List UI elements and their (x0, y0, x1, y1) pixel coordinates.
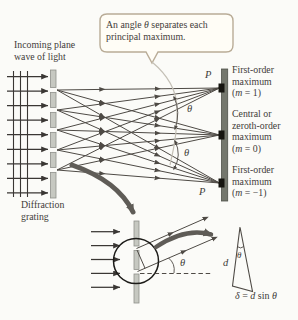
diffracted-ray (57, 88, 220, 90)
m-1-order: (m = −1) (232, 187, 274, 199)
callout-line1-post: separates each (149, 19, 208, 30)
point-p-bottom-label: P (199, 186, 205, 198)
grating-segment (51, 153, 57, 168)
diffracted-ray (57, 88, 220, 110)
diffracted-ray (57, 88, 220, 170)
grating-label-line1: Diffraction (21, 199, 64, 211)
callout-text: An angle θ separates each principal maxi… (106, 19, 208, 43)
m0-order-post: = 0) (242, 143, 261, 154)
d-label: d (223, 257, 228, 269)
diffracted-ray (57, 88, 220, 130)
diffraction-grating-figure: Incoming plane wave of light An angle θ … (0, 0, 298, 320)
theta-inset-label: θ (180, 257, 185, 269)
theta-arc-inset (169, 258, 175, 273)
path-difference-formula: δ = d sin θ (235, 290, 277, 302)
label-first-order-max-m-1: First-order maximum (m = −1) (232, 164, 274, 199)
diffracted-ray (57, 135, 220, 150)
path-difference-triangle (233, 227, 253, 292)
m0-line1: Central or (232, 108, 280, 120)
formula-theta: θ (272, 290, 277, 301)
formula-sin: sin (255, 290, 272, 301)
callout-line1-pre: An angle (106, 19, 144, 30)
grating-label-line2: grating (21, 211, 64, 223)
theta-lower-label: θ (184, 147, 189, 159)
inset-grating-segment (134, 221, 139, 246)
diffracted-ray (57, 130, 220, 183)
inset-grating-segment (134, 274, 139, 303)
m1-order-post: = 1) (242, 87, 261, 98)
m1-line2: maximum (232, 76, 274, 88)
point-p-top-label: P (205, 69, 211, 81)
incoming-light-line2: wave of light (14, 51, 75, 63)
callout-line1: An angle θ separates each (106, 19, 208, 31)
m0-line3: maximum (232, 131, 280, 143)
m1-order: (m = 1) (232, 87, 274, 99)
callout-leader-curve (152, 62, 177, 165)
detail-arrow (156, 232, 211, 247)
theta-arc-triangle (238, 247, 244, 248)
grating-segment (51, 113, 57, 128)
diffracted-ray (57, 90, 220, 135)
m0-order: (m = 0) (232, 143, 280, 155)
grating-segment (51, 93, 57, 108)
m0-line2: zeroth-order (232, 120, 280, 132)
grating-segment (51, 70, 57, 88)
maximum-mark-m0 (219, 131, 225, 140)
maximum-mark-m1 (219, 84, 225, 93)
label-central-max-m0: Central or zeroth-order maximum (m = 0) (232, 108, 280, 154)
incoming-light-line1: Incoming plane (14, 39, 75, 51)
m-1-order-post: = −1) (242, 187, 266, 198)
grating-segment (51, 173, 57, 199)
m1-line1: First-order (232, 64, 274, 76)
diffraction-grating-label: Diffraction grating (21, 199, 64, 222)
grating-segment (51, 133, 57, 148)
label-first-order-max-m1: First-order maximum (m = 1) (232, 64, 274, 99)
theta-upper-label: θ (187, 103, 192, 115)
formula-equals: = (240, 290, 251, 301)
callout-line2: principal maximum. (106, 31, 208, 43)
maximum-mark-m-1 (219, 179, 225, 188)
incoming-light-label: Incoming plane wave of light (14, 39, 75, 62)
theta-triangle-label: θ (237, 250, 241, 262)
m-1-line1: First-order (232, 164, 274, 176)
m-1-line2: maximum (232, 176, 274, 188)
